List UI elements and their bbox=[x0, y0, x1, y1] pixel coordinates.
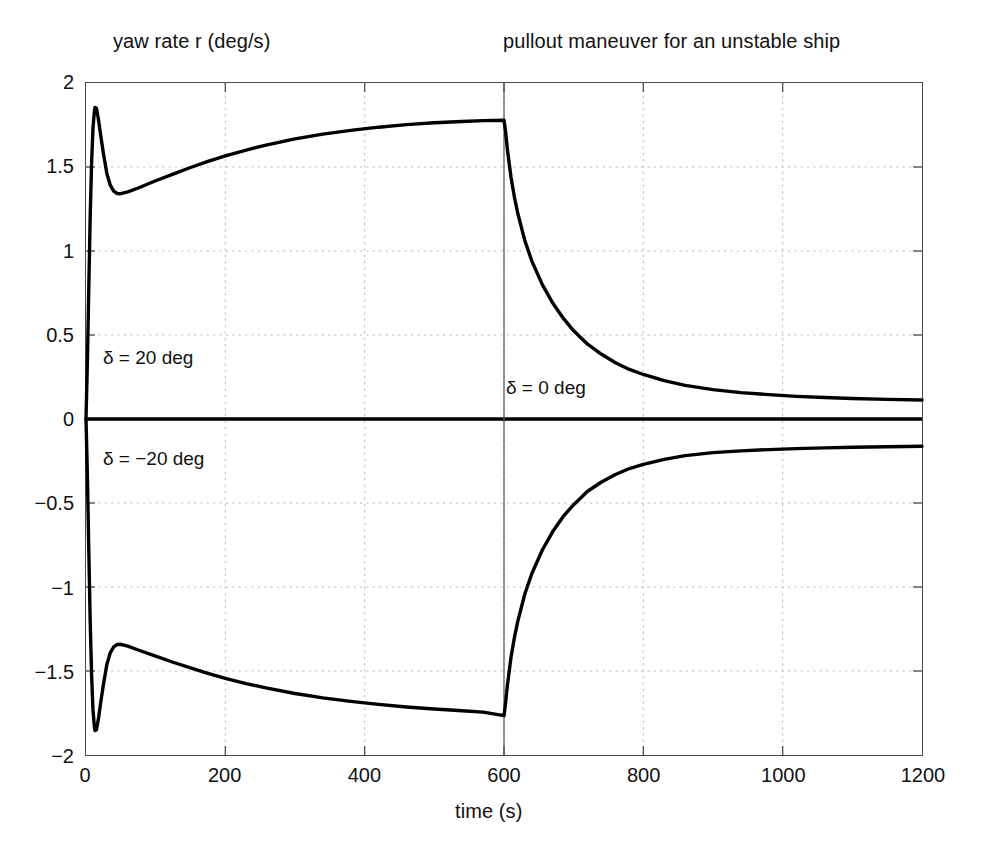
annotation-delta-zero: δ = 0 deg bbox=[506, 377, 586, 399]
x-tick-label: 600 bbox=[487, 764, 520, 787]
annotation-delta-positive: δ = 20 deg bbox=[103, 347, 193, 369]
y-tick-label: −2 bbox=[51, 745, 74, 768]
y-tick-label: −1 bbox=[51, 576, 74, 599]
y-tick-label: −1.5 bbox=[35, 660, 74, 683]
plot-area bbox=[85, 82, 923, 756]
chart-title: pullout maneuver for an unstable ship bbox=[503, 30, 840, 53]
annotation-delta-negative: δ = −20 deg bbox=[103, 448, 204, 470]
data-layer bbox=[86, 83, 922, 755]
y-tick-label: 0.5 bbox=[46, 323, 74, 346]
x-tick-label: 200 bbox=[208, 764, 241, 787]
x-tick-label: 1200 bbox=[901, 764, 946, 787]
y-tick-label: −0.5 bbox=[35, 492, 74, 515]
y-axis-label: yaw rate r (deg/s) bbox=[113, 30, 270, 53]
figure-canvas: yaw rate r (deg/s) pullout maneuver for … bbox=[0, 0, 981, 859]
x-tick-label: 0 bbox=[79, 764, 90, 787]
y-tick-label: 1 bbox=[63, 239, 74, 262]
x-axis-label: time (s) bbox=[455, 800, 522, 823]
y-tick-label: 1.5 bbox=[46, 155, 74, 178]
y-tick-label: 2 bbox=[63, 71, 74, 94]
x-tick-label: 800 bbox=[627, 764, 660, 787]
y-tick-label: 0 bbox=[63, 408, 74, 431]
x-tick-label: 400 bbox=[348, 764, 381, 787]
x-tick-label: 1000 bbox=[761, 764, 806, 787]
